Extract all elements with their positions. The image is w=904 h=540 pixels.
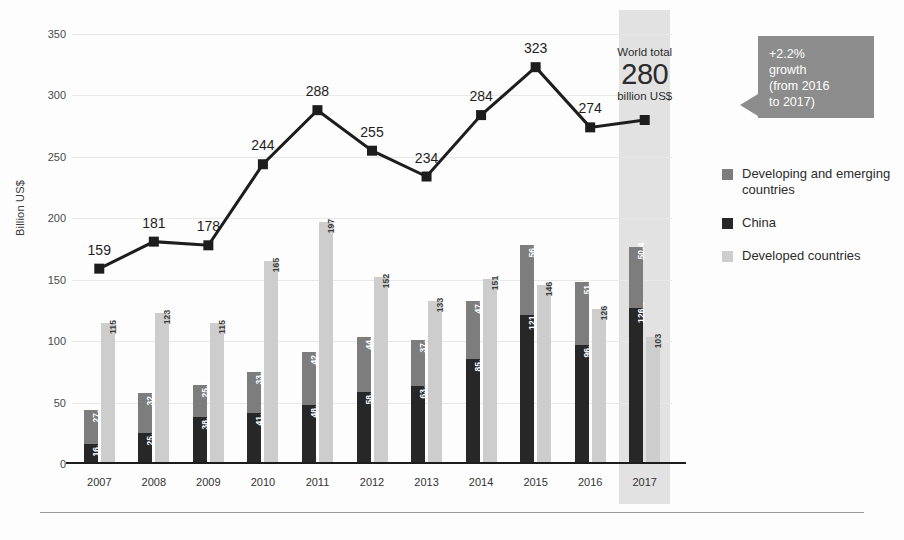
x-axis-tick: 2013: [414, 476, 438, 488]
legend-swatch-icon: [722, 218, 733, 229]
world-total-caption: World total: [593, 46, 697, 58]
bar-developed[interactable]: 123: [155, 313, 169, 464]
legend-item[interactable]: Developing and emerging countries: [722, 166, 897, 198]
y-axis-tick: 300: [26, 89, 66, 101]
y-axis-tick: 150: [26, 274, 66, 286]
bar-segment-china[interactable]: 85.3: [466, 359, 480, 464]
bar-segment-china[interactable]: 48.2: [302, 405, 316, 464]
bar-stacked[interactable]: 85.347.7: [466, 301, 480, 464]
bar-stacked[interactable]: 38.125.9: [193, 385, 207, 464]
x-axis-line: [66, 462, 686, 465]
bar-segment-china[interactable]: 96.9: [575, 345, 589, 464]
bar-segment-developed: 133: [428, 301, 442, 464]
chart-figure: Billion US$ 050100150200250300350 16.627…: [0, 0, 904, 540]
bar-developed[interactable]: 103: [646, 337, 660, 464]
x-axis-tick: 2007: [87, 476, 111, 488]
bar-stacked[interactable]: 25.332.7: [138, 393, 152, 464]
bar-value-label: 51.1: [582, 278, 592, 295]
y-axis-tick: 50: [26, 397, 66, 409]
x-axis-tick: 2015: [523, 476, 547, 488]
bar-stacked[interactable]: 16.627.4: [84, 410, 98, 464]
x-axis-tick: 2011: [306, 476, 330, 488]
bar-segment-china[interactable]: 126.6: [629, 308, 643, 464]
bar-developed[interactable]: 151: [483, 279, 497, 465]
bar-stacked[interactable]: 41.533.6: [247, 372, 261, 464]
bar-value-label: 47.7: [473, 296, 483, 313]
bar-value-label: 197: [326, 219, 336, 233]
bar-value-label: 44.7: [364, 333, 374, 350]
bar-segment-developing[interactable]: 51.1: [575, 282, 589, 345]
bar-developed[interactable]: 115: [210, 323, 224, 464]
bar-segment-developing[interactable]: 42.8: [302, 352, 316, 405]
line-value-label: 284: [469, 88, 492, 104]
callout-line-1: +2.2%: [769, 46, 863, 62]
line-value-label: 255: [360, 124, 383, 140]
bar-segment-developing[interactable]: 50.4: [629, 247, 643, 309]
y-axis-tick: 100: [26, 335, 66, 347]
bar-segment-china[interactable]: 41.5: [247, 413, 261, 464]
bar-segment-developing[interactable]: 27.4: [84, 410, 98, 444]
bar-segment-china[interactable]: 25.3: [138, 433, 152, 464]
bar-developed[interactable]: 146: [537, 285, 551, 464]
bar-value-label: 42.8: [309, 348, 319, 365]
bar-segment-developing[interactable]: 32.7: [138, 393, 152, 433]
bar-group: 63.437.6133: [411, 34, 442, 464]
bar-segment-developing[interactable]: 44.7: [357, 337, 371, 392]
x-axis-tick: 2012: [360, 476, 384, 488]
line-value-label: 274: [578, 100, 601, 116]
bar-group: 25.332.7123: [138, 34, 169, 464]
bar-segment-china[interactable]: 58.3: [357, 392, 371, 464]
legend-label: Developed countries: [742, 248, 861, 264]
legend-label: Developing and emerging countries: [742, 166, 897, 198]
bar-segment-china[interactable]: 63.4: [411, 386, 425, 464]
y-axis-tick: 350: [26, 28, 66, 40]
bar-segment-developed: 103: [646, 337, 660, 464]
legend-swatch-icon: [722, 251, 733, 262]
callout-line-2: growth: [769, 62, 863, 78]
x-axis-tick: 2009: [196, 476, 220, 488]
growth-callout: +2.2% growth (from 2016 to 2017): [758, 36, 874, 118]
bar-stacked[interactable]: 96.951.1: [575, 282, 589, 464]
bar-segment-developing[interactable]: 33.6: [247, 372, 261, 413]
bar-developed[interactable]: 126: [592, 309, 606, 464]
bar-stacked[interactable]: 126.650.4: [629, 247, 643, 464]
x-axis-tick: 2014: [469, 476, 493, 488]
bar-segment-developing[interactable]: 47.7: [466, 301, 480, 360]
x-axis-tick: 2017: [632, 476, 656, 488]
bar-stacked[interactable]: 58.344.7: [357, 337, 371, 464]
bar-stacked[interactable]: 48.242.8: [302, 352, 316, 464]
bar-value-label: 115: [217, 320, 227, 334]
bar-value-label: 126: [599, 306, 609, 320]
legend-item[interactable]: Developed countries: [722, 248, 897, 264]
world-total-value: 280: [593, 59, 697, 89]
bar-developed[interactable]: 165: [264, 261, 278, 464]
legend-item[interactable]: China: [722, 215, 897, 231]
bar-segment-developing[interactable]: 37.6: [411, 340, 425, 386]
bar-stacked[interactable]: 63.437.6: [411, 340, 425, 464]
world-total-annotation: World total 280 billion US$: [593, 46, 697, 102]
callout-line-3: (from 2016: [769, 78, 863, 94]
bar-stacked[interactable]: 121.256.8: [520, 245, 534, 464]
bar-segment-china[interactable]: 38.1: [193, 417, 207, 464]
bar-developed[interactable]: 197: [319, 222, 333, 464]
bar-developed[interactable]: 152: [374, 277, 388, 464]
y-axis-label: Billion US$: [14, 116, 26, 236]
bar-segment-developing[interactable]: 25.9: [193, 385, 207, 417]
bar-value-label: 146: [544, 281, 554, 295]
line-value-label: 181: [142, 215, 165, 231]
bar-developed[interactable]: 115: [101, 323, 115, 464]
bar-segment-developing[interactable]: 56.8: [520, 245, 534, 315]
bar-segment-developed: 151: [483, 279, 497, 465]
line-value-label: 178: [197, 218, 220, 234]
line-value-label: 244: [251, 137, 274, 153]
bar-segment-china[interactable]: 121.2: [520, 315, 534, 464]
x-axis-tick: 2010: [251, 476, 275, 488]
bar-value-label: 37.6: [418, 335, 428, 352]
bar-developed[interactable]: 133: [428, 301, 442, 464]
bar-segment-developed: 115: [101, 323, 115, 464]
legend-swatch-icon: [722, 169, 733, 180]
bar-value-label: 50.4: [636, 242, 646, 259]
bar-group: 41.533.6165: [247, 34, 278, 464]
y-axis-tick: 200: [26, 212, 66, 224]
bar-value-label: 103: [653, 334, 663, 348]
